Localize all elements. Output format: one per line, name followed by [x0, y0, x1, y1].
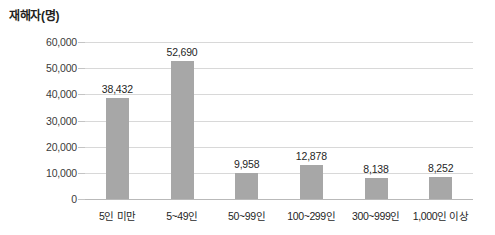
- y-axis-tick-mark: [78, 147, 85, 148]
- gridline: [85, 199, 473, 200]
- bar-value-label: 8,138: [363, 163, 388, 175]
- y-axis-tick-mark: [78, 121, 85, 122]
- y-axis-tick-label: 0: [15, 193, 77, 205]
- gridline: [85, 121, 473, 122]
- gridline: [85, 94, 473, 95]
- y-axis-tick-mark: [78, 173, 85, 174]
- plot-area: [85, 42, 473, 199]
- bar-value-label: 38,432: [102, 83, 133, 95]
- x-axis-category-label: 5~49인: [166, 208, 198, 223]
- x-axis-category-label: 300~999인: [352, 208, 400, 223]
- x-axis-category-label: 1,000인 이상: [413, 208, 469, 223]
- y-axis-tick-mark: [78, 68, 85, 69]
- bar-value-label: 8,252: [428, 162, 453, 174]
- x-axis-category-label: 50~99인: [228, 208, 265, 223]
- y-axis-tick-label: 10,000: [15, 167, 77, 179]
- y-axis-tick-label: 30,000: [15, 115, 77, 127]
- gridline: [85, 42, 473, 43]
- bar[interactable]: [300, 165, 323, 199]
- bar[interactable]: [235, 173, 258, 199]
- bar-value-label: 52,690: [167, 46, 198, 58]
- bar-value-label: 12,878: [296, 150, 327, 162]
- y-axis-tick-label: 40,000: [15, 88, 77, 100]
- y-axis-tick-label: 50,000: [15, 62, 77, 74]
- gridline: [85, 68, 473, 69]
- chart-title: 재해자(명): [9, 6, 59, 23]
- x-axis-category-label: 100~299인: [287, 208, 335, 223]
- y-axis-tick-mark: [78, 94, 85, 95]
- y-axis-tick-label: 60,000: [15, 36, 77, 48]
- bar-chart: 재해자(명) 60,00050,00040,00030,00020,00010,…: [0, 0, 495, 235]
- bar[interactable]: [365, 178, 388, 199]
- bar[interactable]: [429, 177, 452, 199]
- gridline: [85, 147, 473, 148]
- x-axis-category-label: 5인 미만: [99, 208, 136, 223]
- y-axis-tick-label: 20,000: [15, 141, 77, 153]
- bar[interactable]: [106, 98, 129, 199]
- bar-value-label: 9,958: [234, 158, 259, 170]
- bar[interactable]: [171, 61, 194, 199]
- y-axis-tick-mark: [78, 199, 85, 200]
- y-axis-tick-mark: [78, 42, 85, 43]
- gridline: [85, 173, 473, 174]
